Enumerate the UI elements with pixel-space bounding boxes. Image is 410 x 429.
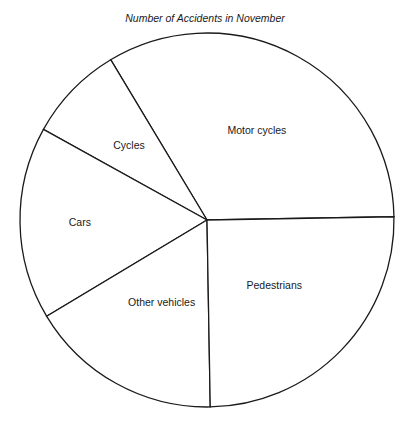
slice-label-motor-cycles: Motor cycles — [227, 124, 286, 136]
slice-label-pedestrians: Pedestrians — [247, 279, 302, 291]
slice-label-cycles: Cycles — [113, 139, 145, 151]
pie-chart: Number of Accidents in November Motor cy… — [0, 0, 410, 429]
pie-slice-pedestrians — [207, 217, 394, 407]
chart-title: Number of Accidents in November — [125, 12, 285, 24]
slice-label-other-vehicles: Other vehicles — [128, 296, 195, 308]
slice-label-cars: Cars — [69, 216, 91, 228]
